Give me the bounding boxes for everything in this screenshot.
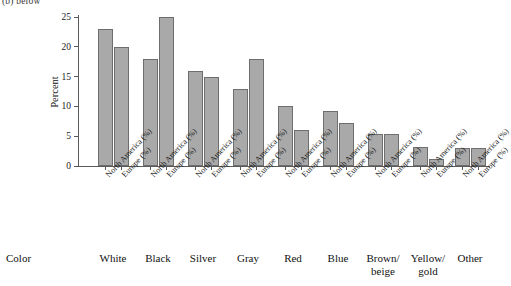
caption-fragment: (b) below xyxy=(2,0,40,6)
category-label-gray: Gray xyxy=(237,252,259,265)
y-tick-mark xyxy=(74,46,78,47)
x-axis-title: Color xyxy=(6,252,31,264)
y-axis-label: Percent xyxy=(49,76,60,108)
category-label-silver: Silver xyxy=(190,252,216,265)
category-label-yellow-gold: Yellow/gold xyxy=(402,252,454,277)
y-tick-mark xyxy=(74,166,78,167)
category-label-white: White xyxy=(100,252,127,265)
category-label-red: Red xyxy=(284,252,302,265)
category-label-other: Other xyxy=(457,252,482,265)
category-label-black: Black xyxy=(145,252,171,265)
y-tick-label: 10 xyxy=(62,101,72,111)
bar-black-eu xyxy=(159,17,174,166)
y-tick-label: 0 xyxy=(66,161,71,171)
category-label-row: Color WhiteBlackSilverGrayRedBlueBrown/b… xyxy=(0,252,499,286)
y-tick-mark xyxy=(74,106,78,107)
category-label-blue: Blue xyxy=(328,252,349,265)
y-tick-mark xyxy=(74,17,78,18)
y-tick-label: 20 xyxy=(62,42,72,52)
bar-white-na xyxy=(98,29,113,166)
y-tick-mark xyxy=(74,76,78,77)
y-tick-mark xyxy=(74,136,78,137)
y-tick-label: 25 xyxy=(62,12,72,22)
y-tick-label: 5 xyxy=(66,131,71,141)
y-tick-label: 15 xyxy=(62,72,72,82)
